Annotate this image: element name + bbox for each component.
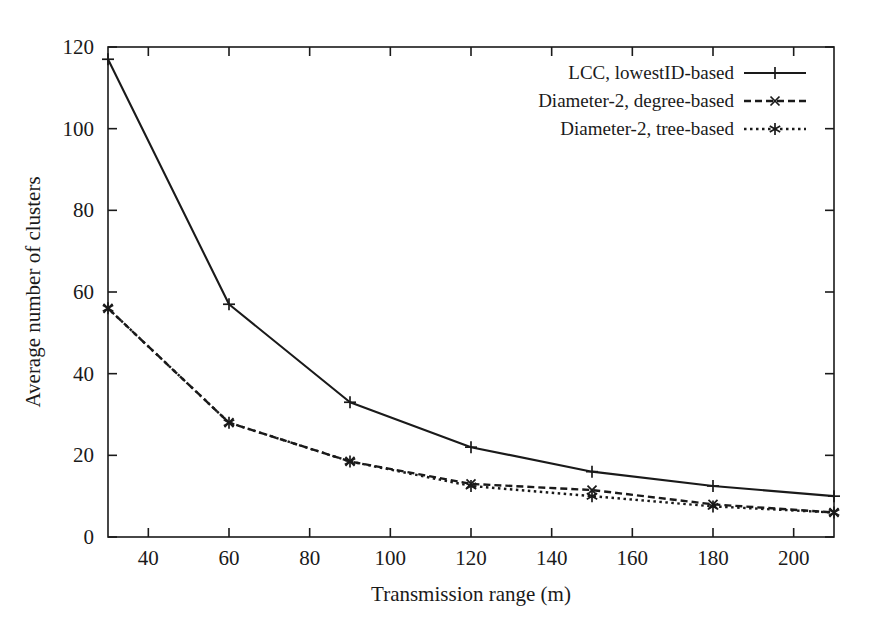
data-point-marker-plus: [102, 53, 114, 65]
y-tick-label: 80: [73, 198, 94, 222]
x-tick-label: 100: [375, 546, 407, 570]
y-tick-label: 120: [63, 35, 95, 59]
chart-legend: LCC, lowestID-basedDiameter-2, degree-ba…: [538, 62, 806, 139]
x-tick-label: 200: [778, 546, 810, 570]
data-point-marker-plus: [769, 67, 781, 79]
data-point-marker-plus: [828, 490, 840, 502]
data-point-marker-plus: [586, 466, 598, 478]
x-axis-tick-labels: 406080100120140160180200: [138, 546, 810, 570]
legend-label-2: Diameter-2, tree-based: [560, 118, 734, 139]
legend-label-1: Diameter-2, degree-based: [538, 90, 734, 111]
x-tick-label: 180: [697, 546, 729, 570]
series-2: [103, 302, 839, 518]
y-tick-label: 20: [73, 443, 94, 467]
data-point-marker-asterisk: [770, 123, 780, 135]
chart-figure: 406080100120140160180200 020406080100120…: [0, 0, 877, 620]
x-tick-label: 160: [617, 546, 649, 570]
y-tick-label: 0: [84, 525, 95, 549]
x-tick-label: 140: [536, 546, 568, 570]
x-tick-label: 120: [455, 546, 487, 570]
y-tick-label: 100: [63, 117, 95, 141]
y-axis-title: Average number of clusters: [21, 176, 45, 407]
y-tick-label: 40: [73, 362, 94, 386]
x-axis-title: Transmission range (m): [371, 582, 571, 606]
x-tick-label: 40: [138, 546, 159, 570]
y-axis-tick-labels: 020406080100120: [63, 35, 95, 549]
line-chart-canvas: 406080100120140160180200 020406080100120…: [0, 0, 877, 620]
x-tick-label: 60: [219, 546, 240, 570]
y-tick-label: 60: [73, 280, 94, 304]
legend-label-0: LCC, lowestID-based: [568, 62, 734, 83]
data-point-marker-plus: [465, 441, 477, 453]
data-point-marker-plus: [707, 480, 719, 492]
x-tick-label: 80: [299, 546, 320, 570]
